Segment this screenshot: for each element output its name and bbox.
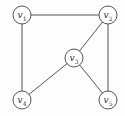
graph-diagram: v1v2v3v4v5 (0, 0, 125, 116)
node-label-v4: v4 (13, 91, 31, 109)
node-label-v1: v1 (13, 6, 31, 24)
node-label-v2: v2 (99, 6, 117, 24)
node-label-v5: v5 (99, 91, 117, 109)
node-label-v3: v3 (65, 49, 83, 67)
